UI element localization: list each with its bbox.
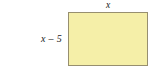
rectangle-width-label-text: x	[106, 1, 110, 11]
rectangle-shape	[68, 12, 148, 66]
rectangle-height-label: x – 5	[0, 32, 62, 46]
rectangle-height-label-text: x – 5	[41, 34, 62, 44]
rectangle-width-label: x	[68, 0, 148, 11]
geometry-figure: x x – 5	[0, 0, 154, 73]
